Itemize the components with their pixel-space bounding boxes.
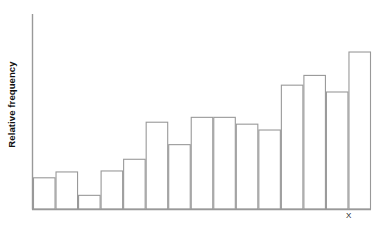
histogram-bar xyxy=(101,171,123,209)
histogram-bar xyxy=(146,122,168,209)
histogram-bar xyxy=(214,117,236,209)
histogram-chart: Relative frequency X xyxy=(0,0,384,231)
histogram-bar xyxy=(236,124,258,209)
x-axis-label: X xyxy=(346,209,351,223)
histogram-bar xyxy=(56,172,78,209)
histogram-bar xyxy=(169,145,191,209)
histogram-bar xyxy=(281,85,303,209)
histogram-bar xyxy=(326,92,348,209)
histogram-bar xyxy=(34,178,56,209)
histogram-bar xyxy=(79,195,101,209)
histogram-bar xyxy=(304,75,326,209)
histogram-bar xyxy=(124,159,146,209)
histogram-bar xyxy=(259,130,281,209)
histogram-bar xyxy=(349,52,371,209)
plot-area xyxy=(0,0,384,231)
histogram-bar xyxy=(191,117,213,209)
bars-group xyxy=(34,52,371,209)
